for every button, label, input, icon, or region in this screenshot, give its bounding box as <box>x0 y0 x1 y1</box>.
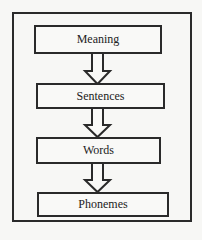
arrow-down-icon <box>85 163 110 192</box>
arrow-down-icon <box>85 53 110 84</box>
box-meaning: Meaning <box>34 25 162 54</box>
box-words: Words <box>36 137 161 164</box>
box-label: Meaning <box>77 32 120 47</box>
box-label: Words <box>83 143 114 158</box>
arrow-down-icon <box>85 108 110 137</box>
box-sentences: Sentences <box>36 83 165 109</box>
box-label: Phonemes <box>78 197 127 212</box>
box-label: Sentences <box>77 89 125 104</box>
box-phonemes: Phonemes <box>37 192 169 217</box>
